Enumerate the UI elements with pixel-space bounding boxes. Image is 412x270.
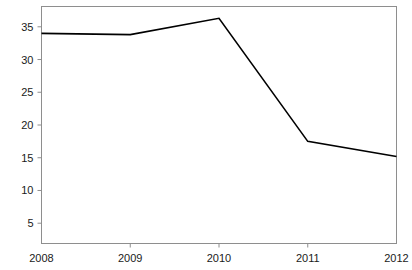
x-tick-label: 2012: [384, 252, 408, 264]
x-tick-label: 2011: [296, 252, 320, 264]
y-tick-label: 25: [21, 86, 33, 98]
y-tick-label: 35: [21, 21, 33, 33]
line-chart: 5101520253035 20082009201020112012: [0, 0, 412, 270]
x-tick-label: 2008: [29, 252, 53, 264]
y-tick-label: 30: [21, 54, 33, 66]
y-tick-label: 20: [21, 119, 33, 131]
y-tick-label: 10: [21, 184, 33, 196]
chart-background: [0, 0, 412, 270]
chart-container: 5101520253035 20082009201020112012: [0, 0, 412, 270]
y-tick-label: 15: [21, 152, 33, 164]
y-tick-label: 5: [27, 217, 33, 229]
x-tick-label: 2009: [118, 252, 142, 264]
x-tick-label: 2010: [207, 252, 231, 264]
